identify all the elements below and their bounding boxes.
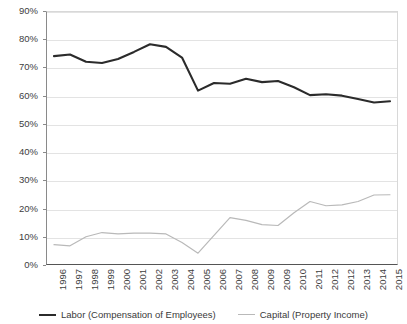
y-axis-tick-label: 90% [19,6,38,16]
y-axis-tick-label: 80% [19,34,38,44]
legend-item-capital: Capital (Property Income) [238,309,368,320]
series-layer [46,11,398,265]
y-axis-tick-label: 60% [19,91,38,101]
x-axis-tick-label: 1999 [106,269,116,290]
x-axis-tick-label: 2012 [330,269,340,290]
x-axis-tick-label: 2004 [186,269,196,290]
legend-label-capital: Capital (Property Income) [260,309,368,320]
x-axis-tick-label: 1998 [90,269,100,290]
x-axis-tick-label: 2005 [202,269,212,290]
y-axis-tick-label: 30% [19,175,38,185]
x-axis-tick-label: 2015 [394,269,404,290]
x-axis-tick-label: 2002 [154,269,164,290]
x-axis-tick-label: 2012 [346,269,356,290]
y-axis-tick-label: 10% [19,232,38,242]
x-axis-tick-label: 2010 [298,269,308,290]
x-axis-tick-label: 2007 [234,269,244,290]
x-axis-tick-label: 2009 [266,269,276,290]
y-axis-tick [43,265,46,266]
x-axis-tick-label: 2003 [170,269,180,290]
x-axis-tick-label: 2013 [362,269,372,290]
legend-item-labor: Labor (Compensation of Employees) [39,309,216,320]
y-axis-tick-label: 70% [19,62,38,72]
chart-legend: Labor (Compensation of Employees) Capita… [0,305,407,324]
x-axis-tick-label: 2000 [122,269,132,290]
x-axis-tick-label: 2014 [378,269,388,290]
x-axis-tick-label: 2011 [314,269,324,289]
line-chart: 0%10%20%30%40%50%60%70%80%90% 1996199719… [0,0,407,324]
y-axis-tick-label: 0% [24,260,38,270]
y-axis-tick-label: 40% [19,147,38,157]
x-axis: 1996199719981999200020012002200320042005… [46,267,398,307]
legend-label-labor: Labor (Compensation of Employees) [61,309,216,320]
legend-swatch-labor-icon [39,314,56,316]
x-axis-tick-label: 2009 [282,269,292,290]
y-axis-tick-label: 50% [19,119,38,129]
y-axis: 0%10%20%30%40%50%60%70%80%90% [0,0,44,276]
y-axis-tick-label: 20% [19,204,38,214]
x-axis-tick-label: 2008 [250,269,260,290]
x-axis-tick-label: 2001 [138,269,148,290]
x-axis-tick-label: 1997 [74,269,84,290]
x-axis-tick-label: 2006 [218,269,228,290]
series-line-capital [54,195,390,253]
x-axis-tick-label: 1996 [58,269,68,290]
legend-swatch-capital-icon [238,314,255,315]
series-line-labor [54,44,390,102]
